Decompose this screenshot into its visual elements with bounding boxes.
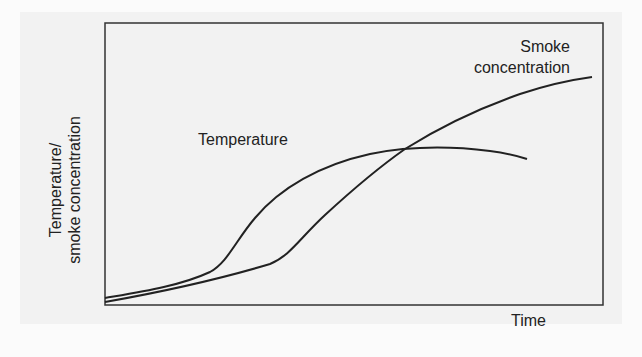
y-axis-label: Temperature/ smoke concentration	[46, 116, 84, 264]
smoke-label-line2: concentration	[474, 57, 570, 78]
temperature-label: Temperature	[198, 131, 288, 149]
x-axis-label: Time	[511, 312, 546, 330]
y-axis-label-line2: smoke concentration	[65, 116, 84, 264]
smoke-concentration-label: Smoke concentration	[474, 36, 570, 78]
y-axis-label-line1: Temperature/	[46, 116, 65, 264]
smoke-concentration-curve	[105, 77, 592, 302]
smoke-label-line1: Smoke	[474, 36, 570, 57]
